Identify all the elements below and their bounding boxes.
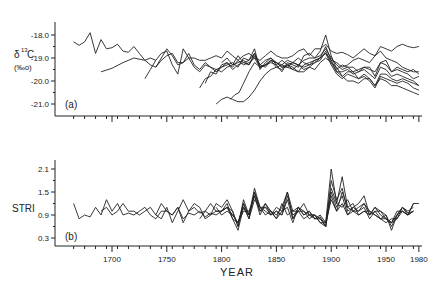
y-tick-label: -18.0 xyxy=(31,31,50,40)
y-tick-label: 2.1 xyxy=(38,165,50,174)
y-tick-label: 0.9 xyxy=(38,211,50,220)
panel-b-series xyxy=(74,169,419,230)
x-tick-label: 1950 xyxy=(377,255,395,264)
x-tick-label: 1850 xyxy=(268,255,286,264)
tree-ring-chart: -18.0-19.0-20.0-21.0 δ 13 C (‰o) (a) 2.1… xyxy=(0,0,447,291)
panel-a-x-ticks xyxy=(74,116,419,122)
y-tick-label: -20.0 xyxy=(31,77,50,86)
series-line-tree-5 xyxy=(216,192,413,230)
x-tick-label: 1700 xyxy=(103,255,121,264)
x-tick-label: 1800 xyxy=(213,255,231,264)
panel-b-y-ticks: 2.11.50.90.3 xyxy=(38,165,55,243)
series-line-tree-2 xyxy=(101,169,413,223)
panel-b-ylabel: STRI xyxy=(12,203,35,214)
series-line-tree-5 xyxy=(200,53,419,90)
y-tick-label: -21.0 xyxy=(31,100,50,109)
series-line-tree-1 xyxy=(74,33,156,61)
panel-a-y-ticks: -18.0-19.0-20.0-21.0 xyxy=(31,31,55,109)
panel-b-label: (b) xyxy=(65,231,77,242)
x-tick-label: 1750 xyxy=(158,255,176,264)
series-line-tree-6 xyxy=(222,192,414,227)
panel-a-label: (a) xyxy=(65,99,77,110)
panel-a-series xyxy=(74,33,419,104)
x-axis-label: YEAR xyxy=(220,266,254,278)
panel-a-ylabel-c: C xyxy=(27,49,34,60)
y-tick-label: 0.3 xyxy=(38,234,50,243)
panel-b-x-ticks: 1700175018001850190019501980 xyxy=(74,246,429,264)
y-tick-label: 1.5 xyxy=(38,188,50,197)
panel-a-axes: -18.0-19.0-20.0-21.0 xyxy=(31,22,422,122)
panel-a-ylabel-unit: (‰o) xyxy=(14,63,32,72)
panel-a-ylabel-delta: δ xyxy=(14,49,20,60)
x-tick-label: 1900 xyxy=(322,255,340,264)
series-line-tree-3 xyxy=(156,181,414,227)
x-tick-label: 1980 xyxy=(410,255,428,264)
